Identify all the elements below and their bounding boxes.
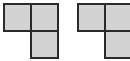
right-figure [77, 3, 130, 59]
left-figure [3, 3, 59, 59]
square-top-left [77, 3, 106, 32]
square-bottom-right [30, 30, 59, 59]
square-bottom-right [104, 30, 130, 59]
square-top-right [104, 3, 130, 32]
square-top-left [3, 3, 32, 32]
square-top-right [30, 3, 59, 32]
